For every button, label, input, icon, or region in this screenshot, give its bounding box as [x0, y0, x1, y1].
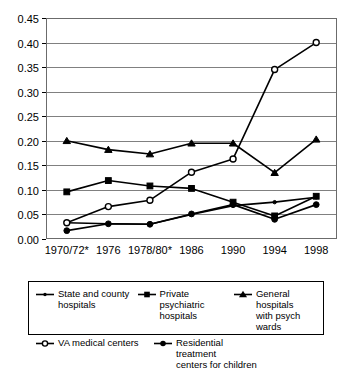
legend-label-line1: Private psychiatric: [160, 288, 205, 310]
y-tick-label: 0.10: [18, 185, 39, 197]
legend-label-line2: hospitals: [58, 299, 96, 310]
legend-label-line1: Residential treatment: [176, 337, 223, 359]
dot-marker-icon: [35, 289, 55, 300]
legend-label: VA medical centers: [58, 337, 139, 348]
open-circle-marker-icon: [35, 338, 55, 349]
x-tick-label: 1986: [179, 244, 203, 256]
data-point-marker: [272, 67, 278, 73]
y-tick-label: 0.45: [18, 13, 39, 25]
data-point-marker: [63, 137, 70, 143]
axis-frame: [47, 19, 337, 239]
data-point-marker: [230, 202, 236, 208]
y-tick-label: 0.05: [18, 209, 39, 221]
data-point-marker: [272, 216, 278, 222]
y-axis-tick-labels: 0.000.050.100.150.200.250.300.350.400.45: [18, 13, 39, 246]
legend-item-residential-treatment-centers-for-children[interactable]: Residential treatment centers for childr…: [153, 337, 265, 370]
y-tick-label: 0.00: [18, 234, 39, 246]
chart-plot-area: 0.000.050.100.150.200.250.300.350.400.45…: [0, 0, 356, 268]
data-point-marker: [64, 220, 70, 226]
y-tick-label: 0.40: [18, 38, 39, 50]
data-point-marker: [147, 221, 153, 227]
y-tick-label: 0.15: [18, 160, 39, 172]
x-tick-label: 1998: [304, 244, 328, 256]
data-point-marker: [147, 197, 153, 203]
data-point-marker: [313, 193, 319, 199]
x-tick-label: 1978/80*: [128, 244, 173, 256]
data-point-marker: [105, 178, 111, 184]
series-markers-group: [63, 40, 320, 234]
y-tick-label: 0.20: [18, 136, 39, 148]
legend-item-state-and-county-hospitals[interactable]: State and county hospitals: [35, 288, 137, 310]
legend-label: General hospitals with psych wards: [256, 288, 319, 332]
legend-label: State and county hospitals: [58, 288, 129, 310]
data-point-marker: [230, 156, 236, 162]
legend-label-line1: General hospitals: [256, 288, 294, 310]
data-point-marker: [313, 40, 319, 46]
data-point-marker: [189, 211, 195, 217]
legend-item-va-medical-centers[interactable]: VA medical centers: [35, 337, 153, 349]
data-point-marker: [313, 136, 320, 142]
y-tick-marks-group: [42, 19, 46, 240]
legend-label-line1: State and county: [58, 288, 129, 299]
data-point-marker: [105, 204, 111, 210]
x-tick-label: 1976: [96, 244, 120, 256]
data-point-marker: [189, 186, 195, 192]
legend-label-line1: VA medical centers: [58, 337, 139, 348]
legend: State and county hospitals Private psych…: [28, 281, 324, 335]
square-marker-icon: [137, 289, 157, 300]
data-point-marker: [273, 200, 276, 203]
x-tick-label: 1970/72*: [45, 244, 90, 256]
x-axis-tick-labels: 1970/72*19761978/80*1986199019941998: [45, 244, 329, 256]
legend-item-general-hospitals-with-psych-wards[interactable]: General hospitals with psych wards: [233, 288, 319, 332]
data-point-marker: [189, 169, 195, 175]
legend-label: Residential treatment centers for childr…: [176, 337, 265, 370]
data-point-marker: [313, 202, 319, 208]
y-tick-label: 0.25: [18, 111, 39, 123]
line-chart-svg: 0.000.050.100.150.200.250.300.350.400.45…: [0, 0, 356, 268]
legend-item-private-psychiatric-hospitals[interactable]: Private psychiatric hospitals: [137, 288, 233, 321]
triangle-marker-icon: [233, 289, 253, 300]
x-tick-label: 1990: [221, 244, 245, 256]
circle-marker-icon: [153, 338, 173, 349]
data-point-marker: [105, 221, 111, 227]
data-point-marker: [64, 228, 70, 234]
legend-row-1: State and county hospitals Private psych…: [35, 288, 319, 332]
y-tick-label: 0.30: [18, 87, 39, 99]
legend-label-line2: centers for children: [176, 359, 257, 370]
x-tick-label: 1994: [262, 244, 286, 256]
data-point-marker: [147, 183, 153, 189]
series-lines-group: [67, 43, 316, 231]
data-point-marker: [64, 189, 70, 195]
y-tick-label: 0.35: [18, 62, 39, 74]
legend-label: Private psychiatric hospitals: [160, 288, 233, 321]
series-line: [67, 43, 316, 223]
plot-border: [47, 19, 337, 239]
legend-row-2: VA medical centers Residential treatment…: [35, 337, 319, 370]
legend-label-line2: with psych wards: [256, 310, 300, 332]
legend-label-line2: hospitals: [160, 310, 198, 321]
